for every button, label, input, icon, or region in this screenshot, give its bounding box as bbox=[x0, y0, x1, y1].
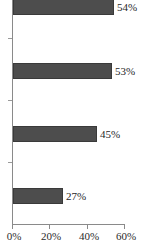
x-axis-tick bbox=[12, 225, 13, 229]
x-axis-line bbox=[12, 224, 125, 225]
x-axis-tick bbox=[87, 225, 88, 229]
x-axis-tick bbox=[49, 225, 50, 229]
x-axis-tick bbox=[124, 225, 125, 229]
y-axis-tick bbox=[8, 162, 12, 163]
bar-1 bbox=[13, 63, 112, 79]
y-axis-tick bbox=[8, 38, 12, 39]
plot-area: 0% 20% 40% 60% 54% 53% 45% 27% bbox=[0, 0, 148, 248]
bar-value-0: 54% bbox=[117, 1, 137, 13]
x-axis-tick-label-40: 40% bbox=[79, 230, 99, 242]
x-axis-tick-label-0: 0% bbox=[7, 230, 22, 242]
y-axis-tick bbox=[8, 100, 12, 101]
bar-chart: 0% 20% 40% 60% 54% 53% 45% 27% bbox=[0, 0, 148, 248]
bar-0 bbox=[13, 0, 114, 15]
bar-value-2: 45% bbox=[100, 128, 120, 140]
bar-2 bbox=[13, 126, 97, 142]
bar-value-1: 53% bbox=[115, 65, 135, 77]
x-axis-tick-label-20: 20% bbox=[41, 230, 61, 242]
bar-value-3: 27% bbox=[66, 190, 86, 202]
x-axis-tick-label-60: 60% bbox=[116, 230, 136, 242]
bar-3 bbox=[13, 188, 63, 204]
